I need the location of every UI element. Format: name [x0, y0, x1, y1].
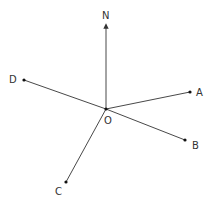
point-d	[22, 78, 25, 81]
point-c-label: C	[55, 186, 62, 197]
ray-oa	[106, 92, 190, 109]
origin-point	[104, 107, 107, 110]
ray-oc	[66, 109, 106, 182]
point-d-label: D	[9, 74, 17, 85]
point-b-label: B	[192, 140, 199, 151]
north-label: N	[102, 10, 109, 21]
point-a-label: A	[196, 87, 203, 98]
ray-od	[24, 80, 106, 109]
bearing-diagram: N O A B C D	[0, 0, 211, 203]
point-c	[64, 180, 67, 183]
origin-label: O	[104, 115, 112, 126]
point-b	[183, 138, 186, 141]
point-a	[188, 90, 191, 93]
ray-ob	[106, 109, 185, 140]
